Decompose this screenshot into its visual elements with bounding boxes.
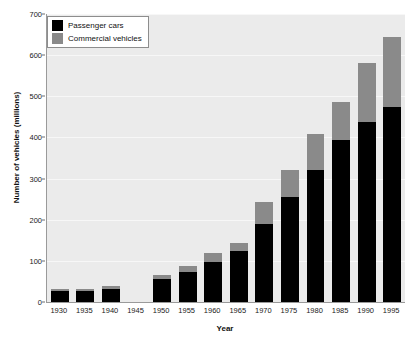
legend-swatch-commercial-icon — [52, 33, 63, 44]
gridline-100 — [47, 261, 405, 262]
gridline-600 — [47, 55, 405, 56]
vehicle-registrations-bar-chart: Number of vehicles (millions) 0100200300… — [0, 0, 411, 342]
bar-segment-commercial-1970 — [255, 202, 273, 223]
chart-legend: Passenger carsCommercial vehicles — [47, 16, 149, 48]
bar-1970 — [255, 202, 273, 302]
bar-segment-passenger-1935 — [76, 291, 94, 302]
y-tick-mark-100 — [42, 260, 45, 261]
bar-segment-passenger-1950 — [153, 279, 171, 302]
bar-segment-passenger-1990 — [358, 122, 376, 302]
gridline-200 — [47, 220, 405, 221]
bar-segment-passenger-1930 — [51, 291, 69, 302]
legend-swatch-passenger-icon — [52, 20, 63, 31]
bar-segment-commercial-1995 — [383, 37, 401, 108]
x-tick-label-1995: 1995 — [383, 306, 400, 315]
bar-1935 — [76, 289, 94, 302]
gridline-700 — [47, 14, 405, 15]
x-tick-label-1990: 1990 — [357, 306, 374, 315]
y-tick-label-700: 700 — [12, 10, 42, 19]
y-tick-label-200: 200 — [12, 215, 42, 224]
bar-segment-passenger-1985 — [332, 140, 350, 303]
bar-segment-commercial-1980 — [307, 134, 325, 169]
x-tick-label-1950: 1950 — [153, 306, 170, 315]
bar-1940 — [102, 286, 120, 302]
y-tick-mark-600 — [42, 55, 45, 56]
x-tick-label-1980: 1980 — [306, 306, 323, 315]
legend-label-passenger: Passenger cars — [68, 21, 124, 30]
bar-1965 — [230, 243, 248, 302]
y-tick-label-100: 100 — [12, 256, 42, 265]
y-tick-label-400: 400 — [12, 133, 42, 142]
bar-segment-commercial-1960 — [204, 253, 222, 262]
x-tick-label-1945: 1945 — [127, 306, 144, 315]
x-tick-label-1940: 1940 — [102, 306, 119, 315]
bar-segment-passenger-1960 — [204, 262, 222, 302]
bar-1995 — [383, 37, 401, 302]
x-tick-label-1975: 1975 — [281, 306, 298, 315]
gridline-400 — [47, 137, 405, 138]
y-tick-mark-400 — [42, 137, 45, 138]
gridline-300 — [47, 179, 405, 180]
bar-1960 — [204, 253, 222, 302]
gridline-500 — [47, 96, 405, 97]
x-tick-label-1985: 1985 — [332, 306, 349, 315]
y-tick-label-300: 300 — [12, 174, 42, 183]
y-tick-label-0: 0 — [12, 298, 42, 307]
bar-1975 — [281, 170, 299, 302]
y-tick-mark-200 — [42, 219, 45, 220]
x-tick-label-1955: 1955 — [178, 306, 195, 315]
legend-entry-passenger: Passenger cars — [52, 20, 142, 31]
y-tick-mark-500 — [42, 96, 45, 97]
y-tick-label-500: 500 — [12, 92, 42, 101]
bar-1955 — [179, 266, 197, 302]
x-tick-label-1930: 1930 — [50, 306, 67, 315]
legend-label-commercial: Commercial vehicles — [68, 34, 142, 43]
bar-segment-passenger-1970 — [255, 224, 273, 302]
x-tick-label-1935: 1935 — [76, 306, 93, 315]
legend-entry-commercial: Commercial vehicles — [52, 33, 142, 44]
y-tick-mark-700 — [42, 14, 45, 15]
bar-segment-passenger-1955 — [179, 272, 197, 302]
bar-1985 — [332, 102, 350, 302]
bar-segment-passenger-1980 — [307, 170, 325, 302]
x-tick-label-1965: 1965 — [229, 306, 246, 315]
bar-segment-commercial-1965 — [230, 243, 248, 251]
bar-segment-commercial-1990 — [358, 63, 376, 122]
bar-segment-commercial-1985 — [332, 102, 350, 139]
bar-segment-passenger-1965 — [230, 251, 248, 302]
bar-1930 — [51, 289, 69, 302]
x-tick-label-1960: 1960 — [204, 306, 221, 315]
x-axis-title: Year — [46, 324, 404, 333]
bar-1990 — [358, 63, 376, 302]
bar-segment-passenger-1995 — [383, 107, 401, 302]
bar-segment-commercial-1975 — [281, 170, 299, 197]
x-tick-label-1970: 1970 — [255, 306, 272, 315]
plot-area — [46, 14, 405, 303]
y-tick-label-600: 600 — [12, 51, 42, 60]
y-tick-mark-0 — [42, 302, 45, 303]
y-tick-mark-300 — [42, 178, 45, 179]
bar-1980 — [307, 134, 325, 302]
bar-segment-passenger-1940 — [102, 289, 120, 302]
bar-1950 — [153, 275, 171, 302]
bar-segment-passenger-1975 — [281, 197, 299, 302]
